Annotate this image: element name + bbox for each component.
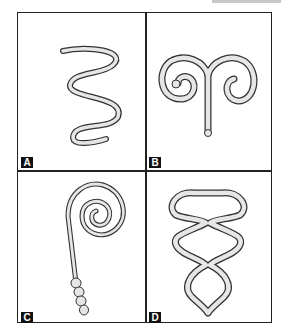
panel-label-a: A: [21, 157, 33, 168]
panel-b: B: [146, 13, 273, 170]
figure-grid: A B C: [17, 12, 272, 323]
worm-serpentine-icon: [18, 13, 145, 170]
top-edge-bar: [212, 0, 281, 3]
panel-label-c: C: [21, 312, 33, 323]
panel-label-d: D: [149, 312, 161, 323]
worm-spiral-beaded-icon: [18, 171, 145, 324]
worm-chain-loops-icon: [146, 171, 273, 324]
panel-c: C: [18, 171, 145, 324]
panel-label-b: B: [149, 157, 161, 168]
worm-ram-horn-icon: [146, 13, 273, 170]
panel-a: A: [18, 13, 145, 170]
panel-d: D: [146, 171, 273, 324]
